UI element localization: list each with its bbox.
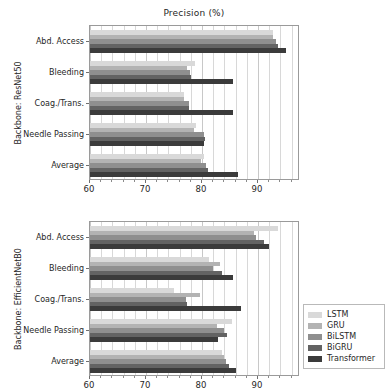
x-tick-minor — [223, 376, 224, 378]
x-tick-minor — [279, 180, 280, 182]
x-tick-minor — [100, 180, 101, 182]
x-tick-minor — [134, 376, 135, 378]
legend-swatch — [308, 312, 322, 318]
x-tick-minor — [167, 180, 168, 182]
bar-transformer-needle-passing — [90, 141, 204, 146]
x-tick-minor — [223, 180, 224, 182]
x-tick-mark — [145, 180, 146, 183]
y-tick-label: Average — [51, 160, 84, 169]
bar-transformer-coag-trans — [90, 110, 233, 115]
x-tick-mark — [145, 376, 146, 379]
x-tick-mark — [201, 376, 202, 379]
x-tick-label: 80 — [196, 184, 207, 194]
y-tick-mark — [86, 134, 89, 135]
x-tick-minor — [111, 376, 112, 378]
x-tick-minor — [268, 376, 269, 378]
legend-swatch — [308, 356, 322, 362]
y-tick-label: Average — [51, 356, 84, 365]
plot-area-efficientnetb0 — [89, 221, 299, 376]
y-tick-label: Bleeding — [49, 67, 84, 76]
x-tick-minor — [190, 376, 191, 378]
legend-label: Transformer — [327, 354, 375, 363]
legend-item-lstm[interactable]: LSTM — [308, 309, 380, 320]
gridline — [292, 222, 293, 375]
x-tick-minor — [179, 180, 180, 182]
bar-transformer-needle-passing — [90, 337, 218, 342]
y-tick-label: Abd. Access — [36, 232, 84, 241]
y-tick-mark — [86, 237, 89, 238]
x-tick-label: 80 — [196, 380, 207, 390]
x-tick-minor — [179, 376, 180, 378]
x-tick-label: 90 — [252, 380, 263, 390]
bar-transformer-bleeding — [90, 79, 233, 84]
legend-label: LSTM — [327, 310, 348, 319]
y-tick-mark — [86, 299, 89, 300]
y-tick-label: Needle Passing — [23, 325, 84, 334]
chart-title: Precision (%) — [89, 8, 299, 18]
legend-swatch — [308, 345, 322, 351]
legend-label: BiLSTM — [327, 332, 356, 341]
y-tick-label: Abd. Access — [36, 36, 84, 45]
x-tick-label: 70 — [140, 380, 151, 390]
bar-transformer-average — [90, 172, 238, 177]
x-tick-minor — [134, 180, 135, 182]
bar-transformer-coag-trans — [90, 306, 241, 311]
y-tick-label: Needle Passing — [23, 129, 84, 138]
x-tick-minor — [212, 180, 213, 182]
x-tick-minor — [156, 376, 157, 378]
legend-item-bilstm[interactable]: BiLSTM — [308, 331, 380, 342]
y-tick-mark — [86, 330, 89, 331]
x-tick-minor — [123, 376, 124, 378]
gridline — [280, 222, 281, 375]
x-tick-mark — [89, 376, 90, 379]
gridline — [292, 26, 293, 179]
x-tick-minor — [268, 180, 269, 182]
x-tick-minor — [235, 376, 236, 378]
bar-transformer-average — [90, 368, 236, 373]
y-tick-mark — [86, 361, 89, 362]
bar-transformer-abd-access — [90, 48, 286, 53]
x-tick-mark — [89, 180, 90, 183]
figure-precision-comparison: Precision (%) Backbone: ResNet50 6070809… — [0, 0, 390, 392]
legend-label: GRU — [327, 321, 345, 330]
x-tick-minor — [167, 376, 168, 378]
bar-transformer-bleeding — [90, 275, 233, 280]
x-tick-minor — [111, 180, 112, 182]
x-tick-label: 60 — [84, 380, 95, 390]
x-tick-label: 90 — [252, 184, 263, 194]
y-axis-title-bottom: Backbone: EfficientNetB0 — [14, 248, 23, 350]
legend-item-transformer[interactable]: Transformer — [308, 353, 380, 364]
legend-label: BiGRU — [327, 343, 352, 352]
gridline — [269, 222, 270, 375]
y-axis-title-top: Backbone: ResNet50 — [14, 61, 23, 144]
x-tick-mark — [257, 376, 258, 379]
y-tick-mark — [86, 165, 89, 166]
x-tick-mark — [257, 180, 258, 183]
x-tick-minor — [100, 376, 101, 378]
y-tick-label: Bleeding — [49, 263, 84, 272]
x-tick-minor — [156, 180, 157, 182]
legend-item-gru[interactable]: GRU — [308, 320, 380, 331]
x-tick-minor — [279, 376, 280, 378]
x-tick-minor — [190, 180, 191, 182]
x-tick-label: 70 — [140, 184, 151, 194]
x-tick-minor — [123, 180, 124, 182]
x-tick-minor — [235, 180, 236, 182]
y-tick-mark — [86, 268, 89, 269]
plot-area-resnet50 — [89, 25, 299, 180]
x-tick-mark — [201, 180, 202, 183]
y-tick-mark — [86, 103, 89, 104]
x-tick-minor — [246, 376, 247, 378]
legend: LSTMGRUBiLSTMBiGRUTransformer — [303, 304, 385, 369]
y-tick-label: Coag./Trans. — [35, 98, 84, 107]
x-tick-minor — [291, 180, 292, 182]
y-tick-mark — [86, 41, 89, 42]
x-tick-minor — [246, 180, 247, 182]
x-tick-label: 60 — [84, 184, 95, 194]
bar-transformer-abd-access — [90, 244, 269, 249]
legend-item-bigru[interactable]: BiGRU — [308, 342, 380, 353]
x-tick-minor — [291, 376, 292, 378]
legend-swatch — [308, 334, 322, 340]
panel-resnet50: Precision (%) Backbone: ResNet50 6070809… — [0, 0, 390, 196]
x-tick-minor — [212, 376, 213, 378]
